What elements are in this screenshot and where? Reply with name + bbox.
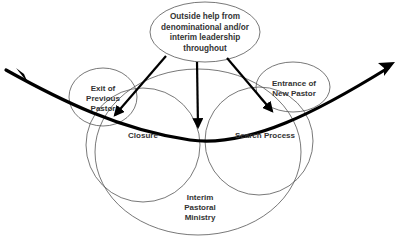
outside-help-line2: denominational and/or [150, 23, 260, 34]
outside-help-line1: Outside help from [150, 12, 260, 23]
outside-help-line4: throughout [150, 44, 260, 55]
closure-label: Closure [113, 131, 173, 141]
interim-pastoral-ministry-label: Interim Pastoral Ministry [170, 193, 230, 223]
outside-help-label: Outside help from denominational and/or … [150, 12, 260, 54]
entrance-line2: New Pastor [258, 89, 330, 99]
interim-line2: Pastoral [170, 203, 230, 213]
interim-line3: Ministry [170, 213, 230, 223]
interim-line1: Interim [170, 193, 230, 203]
search-process-label: Search Process [225, 131, 305, 141]
arrow-to-interim [197, 62, 198, 127]
exit-line1: Exit of [73, 84, 133, 94]
exit-previous-pastor-label: Exit of Previous Pastor [73, 84, 133, 114]
entrance-line1: Entrance of [258, 79, 330, 89]
exit-line3: Pastor [73, 104, 133, 114]
outside-help-line3: interim leadership [150, 33, 260, 44]
entrance-new-pastor-label: Entrance of New Pastor [258, 79, 330, 99]
exit-line2: Previous [73, 94, 133, 104]
